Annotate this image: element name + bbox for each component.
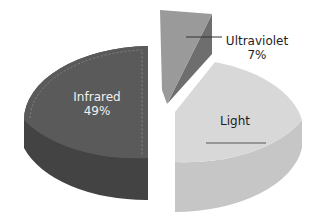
label-ultraviolet: Ultraviolet 7% <box>222 34 292 62</box>
label-infrared: Infrared 49% <box>62 90 132 118</box>
label-ultraviolet-name: Ultraviolet <box>222 34 292 48</box>
label-infrared-value: 49% <box>62 104 132 118</box>
label-infrared-name: Infrared <box>62 90 132 104</box>
label-light: Light <box>200 114 270 128</box>
label-light-name: Light <box>200 114 270 128</box>
label-ultraviolet-value: 7% <box>222 48 292 62</box>
pie-chart <box>0 0 318 220</box>
